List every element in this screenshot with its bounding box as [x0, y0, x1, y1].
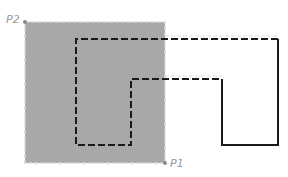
shape-unselected-segment[interactable]: [222, 39, 278, 145]
p2-grip-icon[interactable]: [23, 20, 27, 24]
drawing-area[interactable]: [0, 0, 288, 177]
p2-label: P2: [6, 13, 20, 26]
p1-label: P1: [170, 157, 184, 170]
p1-grip-icon[interactable]: [163, 161, 167, 165]
selection-window: [25, 22, 165, 163]
